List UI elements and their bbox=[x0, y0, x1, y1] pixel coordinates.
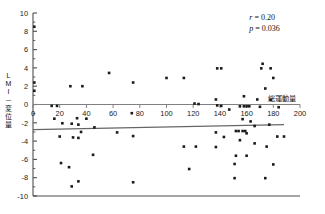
y-tick-label: -6 bbox=[21, 155, 28, 164]
data-point bbox=[183, 145, 186, 148]
data-point bbox=[241, 130, 244, 133]
data-point bbox=[248, 105, 251, 108]
data-point bbox=[260, 67, 263, 70]
data-point bbox=[183, 77, 186, 80]
y-axis-title: L M I － 変 位 量 bbox=[2, 72, 15, 129]
data-point bbox=[265, 145, 268, 148]
data-point bbox=[245, 132, 248, 135]
data-point bbox=[216, 67, 219, 70]
data-point bbox=[165, 77, 168, 80]
data-points-group bbox=[33, 25, 285, 187]
y-tick-label: -4 bbox=[21, 137, 28, 146]
data-point bbox=[93, 126, 96, 129]
data-point bbox=[197, 103, 200, 106]
data-point bbox=[243, 95, 246, 98]
x-tick-label: 140 bbox=[214, 109, 226, 118]
data-point bbox=[264, 87, 267, 90]
data-point bbox=[253, 142, 256, 145]
y-tick-label: 2 bbox=[24, 82, 28, 91]
data-point bbox=[237, 130, 240, 133]
data-point bbox=[256, 98, 259, 101]
data-point bbox=[56, 105, 59, 108]
data-point bbox=[283, 135, 286, 138]
data-point bbox=[188, 168, 191, 171]
x-tick-label: 120 bbox=[187, 109, 199, 118]
x-tick-label: 20 bbox=[56, 109, 64, 118]
data-point bbox=[272, 163, 275, 166]
data-point bbox=[61, 122, 64, 125]
data-point bbox=[70, 122, 73, 125]
y-tick-label: 10 bbox=[20, 9, 28, 18]
data-point bbox=[50, 105, 53, 108]
y-tick-label: 4 bbox=[24, 64, 28, 73]
x-tick-label: 60 bbox=[109, 109, 117, 118]
data-point bbox=[33, 81, 36, 84]
correlation-coefficient-value: = 0.20 bbox=[254, 13, 275, 22]
data-point bbox=[69, 85, 72, 88]
annotations-group: r= 0.20p= 0.036 bbox=[248, 13, 280, 33]
data-point bbox=[195, 145, 198, 148]
data-point bbox=[76, 117, 79, 120]
y-tick-label: 8 bbox=[24, 27, 28, 36]
data-point bbox=[215, 131, 218, 134]
data-point bbox=[233, 177, 236, 180]
data-point bbox=[249, 120, 252, 123]
data-point bbox=[77, 180, 80, 183]
x-tick-label: 0 bbox=[31, 109, 35, 118]
data-point bbox=[80, 131, 83, 134]
y-tick-label: -10 bbox=[17, 192, 28, 201]
data-point bbox=[276, 135, 279, 138]
data-point bbox=[259, 105, 262, 108]
data-point bbox=[60, 162, 63, 165]
x-tick-label: 180 bbox=[267, 109, 279, 118]
data-point bbox=[239, 139, 242, 142]
data-point bbox=[241, 118, 244, 121]
data-point bbox=[72, 136, 75, 139]
data-point bbox=[233, 163, 236, 166]
data-point bbox=[215, 98, 218, 101]
data-point bbox=[245, 105, 248, 108]
data-point bbox=[261, 62, 264, 65]
correlation-coefficient-symbol: r bbox=[249, 13, 253, 22]
data-point bbox=[220, 67, 223, 70]
data-point bbox=[264, 177, 267, 180]
data-point bbox=[53, 117, 56, 120]
data-point bbox=[228, 108, 231, 111]
data-point bbox=[244, 130, 247, 133]
data-point bbox=[58, 135, 61, 138]
data-point bbox=[77, 137, 80, 140]
data-point bbox=[130, 112, 133, 115]
data-point bbox=[253, 125, 256, 128]
p-value-symbol: p bbox=[248, 24, 253, 33]
data-point bbox=[132, 135, 135, 138]
data-point bbox=[243, 105, 246, 108]
data-point bbox=[116, 131, 119, 134]
data-point bbox=[77, 123, 80, 126]
trendline-group bbox=[33, 125, 284, 130]
data-point bbox=[239, 105, 242, 108]
x-tick-label: 100 bbox=[160, 109, 172, 118]
data-point bbox=[33, 89, 36, 92]
data-point bbox=[70, 185, 73, 188]
data-point bbox=[68, 166, 71, 169]
data-point bbox=[235, 154, 238, 157]
data-point bbox=[245, 154, 248, 157]
data-point bbox=[223, 136, 226, 139]
y-tick-label: 0 bbox=[24, 100, 28, 109]
axis-titles-group: 総運動量 bbox=[268, 94, 296, 103]
data-point bbox=[132, 81, 135, 84]
data-point bbox=[269, 67, 272, 70]
y-tick-label: -8 bbox=[21, 173, 28, 182]
data-point bbox=[33, 25, 36, 28]
y-tick-label: 6 bbox=[24, 45, 28, 54]
x-axis-title: 総運動量 bbox=[268, 94, 296, 103]
data-point bbox=[193, 102, 196, 105]
scatter-plot-figure: -10-8-6-4-202468100204060801001201401601… bbox=[0, 0, 325, 214]
x-tick-label: 80 bbox=[136, 109, 144, 118]
data-point bbox=[85, 117, 88, 120]
y-tick-label: -2 bbox=[21, 119, 28, 128]
data-point bbox=[81, 85, 84, 88]
data-point bbox=[272, 77, 275, 80]
plot-canvas: -10-8-6-4-202468100204060801001201401601… bbox=[0, 0, 325, 214]
data-point bbox=[216, 104, 219, 107]
